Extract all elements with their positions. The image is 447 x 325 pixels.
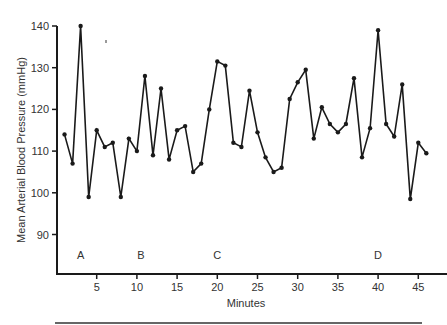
data-point <box>255 130 259 134</box>
x-tick-label: 40 <box>372 281 384 293</box>
data-point <box>263 155 267 159</box>
data-point <box>183 124 187 128</box>
data-point <box>271 170 275 174</box>
data-point <box>368 126 372 130</box>
x-tick-label: 45 <box>412 281 424 293</box>
line-chart: 90100110120130140 51015202530354045 Mean… <box>0 0 447 325</box>
data-point <box>151 153 155 157</box>
data-point <box>159 86 163 90</box>
y-axis: 90100110120130140 <box>31 20 57 274</box>
data-point <box>199 161 203 165</box>
data-point <box>336 130 340 134</box>
data-point <box>167 157 171 161</box>
x-axis-title: Minutes <box>227 297 266 309</box>
phase-label-a: A <box>77 249 85 261</box>
data-point <box>127 136 131 140</box>
x-tick-label: 20 <box>211 281 223 293</box>
phase-label-d: D <box>374 249 382 261</box>
data-point <box>95 128 99 132</box>
data-point <box>424 151 428 155</box>
y-tick-label: 100 <box>31 187 49 199</box>
y-tick-label: 110 <box>31 145 49 157</box>
y-tick-label: 130 <box>31 62 49 74</box>
data-point <box>304 68 308 72</box>
phase-label-c: C <box>213 249 221 261</box>
data-point <box>352 76 356 80</box>
data-point <box>70 161 74 165</box>
series-line <box>65 26 427 199</box>
x-tick-label: 10 <box>131 281 143 293</box>
data-point <box>392 134 396 138</box>
data-point <box>296 80 300 84</box>
data-point <box>103 145 107 149</box>
data-point <box>143 74 147 78</box>
x-axis: 51015202530354045 <box>56 274 447 293</box>
data-point <box>312 136 316 140</box>
y-axis-title: Mean Arterial Blood Pressure (mmHg) <box>15 57 27 243</box>
data-point <box>344 122 348 126</box>
data-point <box>376 28 380 32</box>
x-tick-label: 15 <box>171 281 183 293</box>
x-tick-label: 35 <box>332 281 344 293</box>
data-point <box>416 141 420 145</box>
data-point <box>287 97 291 101</box>
x-tick-label: 30 <box>292 281 304 293</box>
x-tick-label: 5 <box>94 281 100 293</box>
data-point <box>223 63 227 67</box>
phase-annotations: ABCD <box>77 249 382 261</box>
data-point <box>384 122 388 126</box>
data-point <box>408 197 412 201</box>
data-point <box>207 107 211 111</box>
x-tick-label: 25 <box>251 281 263 293</box>
y-tick-label: 120 <box>31 103 49 115</box>
y-tick-label: 140 <box>31 20 49 32</box>
data-point <box>328 122 332 126</box>
data-point <box>239 145 243 149</box>
stray-speck <box>105 40 107 43</box>
data-point <box>360 155 364 159</box>
data-point <box>400 82 404 86</box>
data-point <box>279 166 283 170</box>
data-point <box>175 128 179 132</box>
phase-label-b: B <box>137 249 144 261</box>
data-point <box>78 24 82 28</box>
data-point <box>86 195 90 199</box>
data-point <box>111 141 115 145</box>
data-point <box>62 132 66 136</box>
data-point <box>247 88 251 92</box>
data-point <box>135 149 139 153</box>
data-point <box>320 105 324 109</box>
data-point <box>191 170 195 174</box>
y-tick-label: 90 <box>37 229 49 241</box>
data-series <box>62 24 428 201</box>
data-point <box>119 195 123 199</box>
data-point <box>215 59 219 63</box>
data-point <box>231 141 235 145</box>
